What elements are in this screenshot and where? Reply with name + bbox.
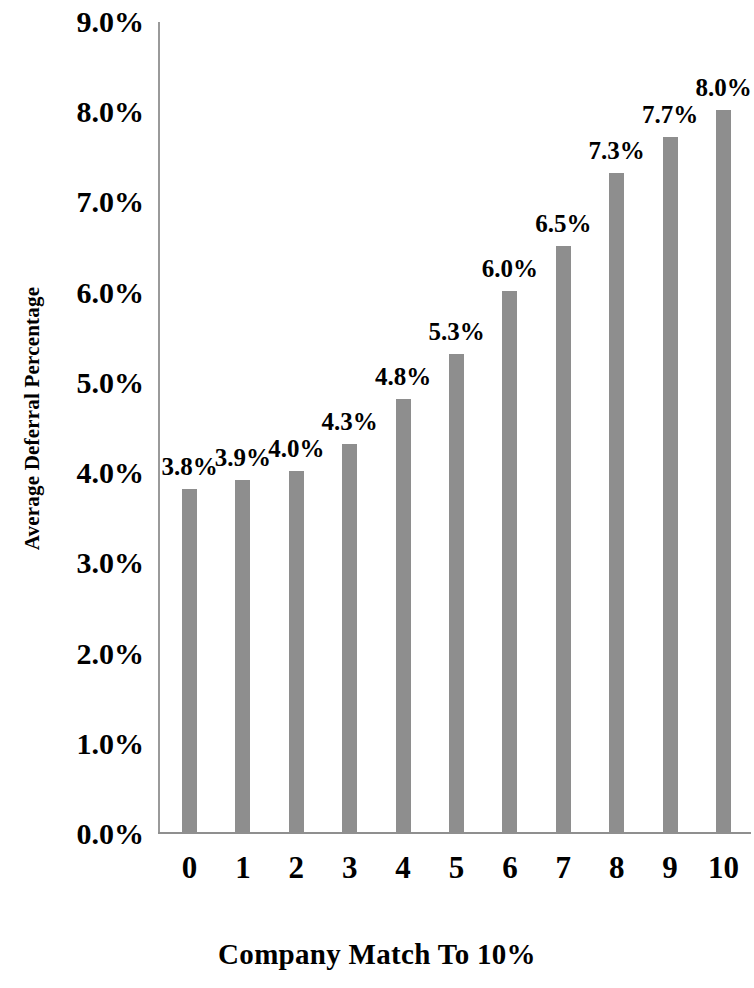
bar bbox=[235, 480, 250, 832]
x-axis-tick-label: 7 bbox=[533, 852, 593, 883]
x-axis-line bbox=[158, 832, 751, 834]
y-axis-line bbox=[158, 22, 160, 834]
y-axis-tick-label: 0.0% bbox=[36, 819, 144, 849]
y-axis-tick-label: 1.0% bbox=[36, 729, 144, 759]
x-axis-tick-label: 5 bbox=[427, 852, 487, 883]
bar bbox=[449, 354, 464, 832]
y-axis-tick-label: 6.0% bbox=[36, 278, 144, 308]
x-axis-tick-label: 1 bbox=[213, 852, 273, 883]
bar bbox=[716, 110, 731, 832]
bar-value-label: 7.3% bbox=[568, 138, 666, 163]
x-axis-tick-label: 0 bbox=[160, 852, 220, 883]
y-axis-tick-label: 7.0% bbox=[36, 187, 144, 217]
x-axis-tick-label: 2 bbox=[266, 852, 326, 883]
bar-chart: Average Deferral Percentage 9.0%8.0%7.0%… bbox=[0, 0, 754, 988]
y-axis-tick-label: 8.0% bbox=[36, 97, 144, 127]
bar-value-label: 6.0% bbox=[461, 256, 559, 281]
bar bbox=[289, 471, 304, 832]
x-axis-title: Company Match To 10% bbox=[0, 938, 754, 971]
x-axis-tick-label: 3 bbox=[320, 852, 380, 883]
x-axis-tick-label: 4 bbox=[373, 852, 433, 883]
y-axis-tick-label: 4.0% bbox=[36, 458, 144, 488]
bar-value-label: 4.8% bbox=[354, 364, 452, 389]
bar-value-label: 4.0% bbox=[247, 436, 345, 461]
bar bbox=[663, 137, 678, 832]
bar-value-label: 5.3% bbox=[408, 319, 506, 344]
bar-value-label: 8.0% bbox=[675, 75, 754, 100]
bar-value-label: 4.3% bbox=[301, 409, 399, 434]
bar-value-label: 7.7% bbox=[621, 102, 719, 127]
y-axis-tick-labels: 9.0%8.0%7.0%6.0%5.0%4.0%3.0%2.0%1.0%0.0% bbox=[34, 0, 144, 988]
x-axis-tick-label: 9 bbox=[640, 852, 700, 883]
bar-value-label: 6.5% bbox=[514, 211, 612, 236]
bar bbox=[609, 173, 624, 832]
y-axis-tick-label: 9.0% bbox=[36, 7, 144, 37]
bar bbox=[396, 399, 411, 832]
bar bbox=[342, 444, 357, 832]
y-axis-tick-label: 5.0% bbox=[36, 368, 144, 398]
bar bbox=[556, 246, 571, 832]
y-axis-tick-label: 2.0% bbox=[36, 639, 144, 669]
x-axis-tick-label: 6 bbox=[480, 852, 540, 883]
bar bbox=[502, 291, 517, 832]
x-axis-tick-labels: 012345678910 bbox=[158, 852, 754, 902]
x-axis-tick-label: 10 bbox=[694, 852, 754, 883]
y-axis-tick-label: 3.0% bbox=[36, 548, 144, 578]
x-axis-tick-label: 8 bbox=[587, 852, 647, 883]
bar bbox=[182, 489, 197, 832]
plot-area: 3.8%3.9%4.0%4.3%4.8%5.3%6.0%6.5%7.3%7.7%… bbox=[158, 22, 754, 834]
